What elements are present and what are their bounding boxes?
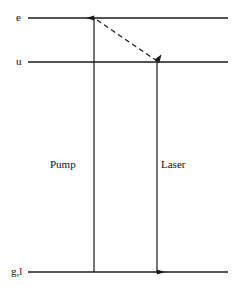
diagram-canvas [0,0,240,298]
energy-level-label-gl: g,l [11,266,22,277]
laser-transition-label: Laser [161,159,185,170]
pump-transition-label: Pump [50,159,76,170]
energy-level-label-u: u [16,56,22,67]
energy-level-diagram: e u g,l Pump Laser [0,0,240,298]
decay-transition-arrow [97,20,157,61]
energy-level-label-e: e [16,12,21,23]
